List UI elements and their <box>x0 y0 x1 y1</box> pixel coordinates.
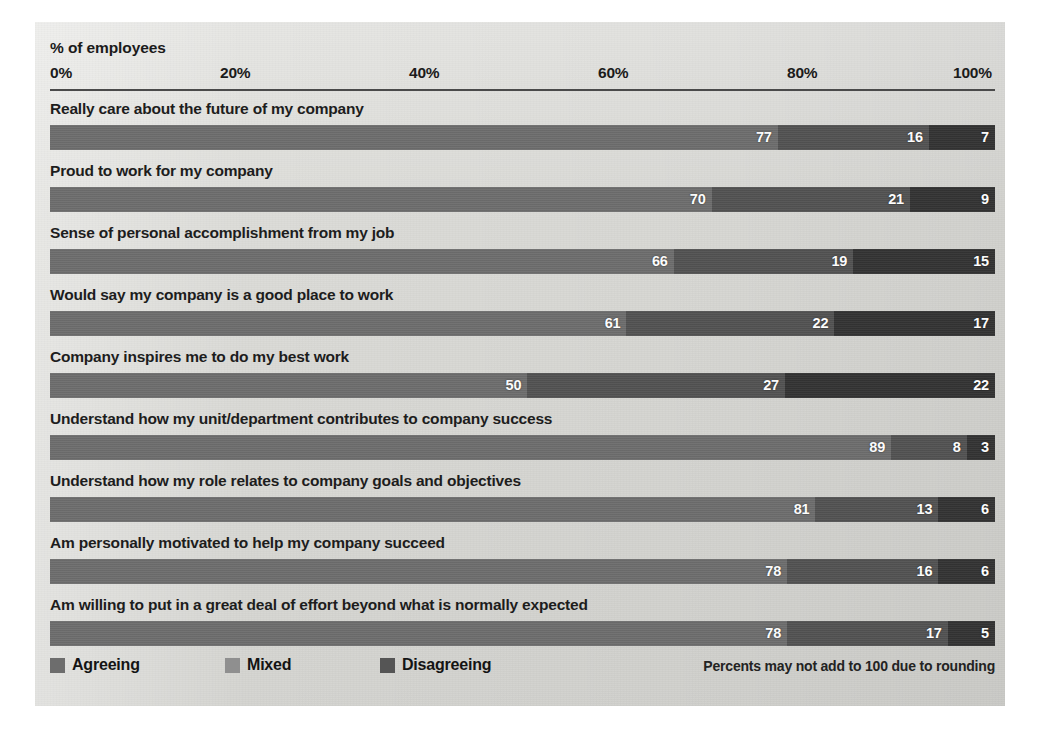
bar-segment-mixed: 16 <box>787 559 938 584</box>
bar-segment-value: 61 <box>605 316 627 331</box>
bar-segment-agreeing: 50 <box>50 373 527 398</box>
bar-segment-value: 15 <box>973 254 995 269</box>
bar-segment-agreeing: 89 <box>50 435 891 460</box>
legend-label: Disagreeing <box>402 656 491 674</box>
bar-segment-value: 7 <box>981 130 995 145</box>
x-axis-ticks: 0%20%40%60%80%100% <box>50 64 995 86</box>
bar-row: Would say my company is a good place to … <box>50 284 995 346</box>
x-tick-60: 60% <box>598 64 628 82</box>
bar-row-label: Am willing to put in a great deal of eff… <box>50 596 588 614</box>
bar-segment-mixed: 22 <box>626 311 834 336</box>
bar-segment-agreeing: 81 <box>50 497 815 522</box>
bar-segment-value: 9 <box>981 192 995 207</box>
bar-segment-disagreeing: 7 <box>929 125 995 150</box>
bar-segment-mixed: 27 <box>527 373 785 398</box>
bar-segment-value: 70 <box>690 192 712 207</box>
bar-segment-agreeing: 70 <box>50 187 712 212</box>
bar-segment-value: 8 <box>953 440 967 455</box>
stacked-bar: 661915 <box>50 249 995 274</box>
bar-row: Am personally motivated to help my compa… <box>50 532 995 594</box>
bar-row-label: Sense of personal accomplishment from my… <box>50 224 394 242</box>
stacked-bar: 502722 <box>50 373 995 398</box>
stacked-bar: 70219 <box>50 187 995 212</box>
x-tick-80: 80% <box>787 64 817 82</box>
stacked-bar: 77167 <box>50 125 995 150</box>
x-tick-40: 40% <box>409 64 439 82</box>
bar-row-label: Proud to work for my company <box>50 162 273 180</box>
legend-swatch-agreeing <box>50 658 65 673</box>
legend-swatch-mixed <box>225 658 240 673</box>
bar-segment-disagreeing: 5 <box>948 621 995 646</box>
bar-segment-disagreeing: 6 <box>938 559 995 584</box>
x-tick-0: 0% <box>50 64 72 82</box>
bar-segment-value: 78 <box>765 626 787 641</box>
bar-segment-mixed: 19 <box>674 249 854 274</box>
bar-segment-disagreeing: 15 <box>853 249 995 274</box>
bar-row-label: Company inspires me to do my best work <box>50 348 349 366</box>
bar-segment-value: 17 <box>926 626 948 641</box>
bar-segment-value: 17 <box>973 316 995 331</box>
stacked-bar: 78166 <box>50 559 995 584</box>
bar-row-label: Am personally motivated to help my compa… <box>50 534 445 552</box>
bar-segment-value: 21 <box>888 192 910 207</box>
stacked-bar: 8983 <box>50 435 995 460</box>
stacked-bar: 612217 <box>50 311 995 336</box>
axis-title: % of employees <box>50 39 166 57</box>
bar-segment-disagreeing: 9 <box>910 187 995 212</box>
x-tick-100: 100% <box>953 64 992 82</box>
bar-segment-value: 22 <box>973 378 995 393</box>
stacked-bar: 81136 <box>50 497 995 522</box>
bar-row-label: Understand how my unit/department contri… <box>50 410 552 428</box>
legend-item-agreeing[interactable]: Agreeing <box>50 656 140 674</box>
bar-row: Am willing to put in a great deal of eff… <box>50 594 995 656</box>
bar-row-label: Really care about the future of my compa… <box>50 100 364 118</box>
bar-rows: Really care about the future of my compa… <box>50 98 995 656</box>
bar-segment-disagreeing: 3 <box>967 435 995 460</box>
bar-segment-value: 3 <box>981 440 995 455</box>
bar-segment-value: 50 <box>506 378 528 393</box>
bar-segment-value: 16 <box>907 130 929 145</box>
bar-segment-agreeing: 66 <box>50 249 674 274</box>
legend-swatch-disagreeing <box>380 658 395 673</box>
bar-segment-value: 13 <box>917 502 939 517</box>
bar-segment-value: 66 <box>652 254 674 269</box>
bar-row: Really care about the future of my compa… <box>50 98 995 160</box>
bar-segment-value: 78 <box>765 564 787 579</box>
bar-segment-mixed: 8 <box>891 435 967 460</box>
bar-segment-value: 77 <box>756 130 778 145</box>
bar-row: Sense of personal accomplishment from my… <box>50 222 995 284</box>
bar-segment-value: 89 <box>869 440 891 455</box>
chart-inner: % of employees 0%20%40%60%80%100% Really… <box>50 22 1010 706</box>
bar-segment-value: 6 <box>981 564 995 579</box>
bar-segment-mixed: 13 <box>815 497 938 522</box>
legend-item-mixed[interactable]: Mixed <box>225 656 291 674</box>
x-tick-20: 20% <box>220 64 250 82</box>
bar-segment-agreeing: 61 <box>50 311 626 336</box>
bar-segment-value: 22 <box>813 316 835 331</box>
bar-row: Understand how my unit/department contri… <box>50 408 995 470</box>
stacked-bar: 78175 <box>50 621 995 646</box>
bar-row-label: Understand how my role relates to compan… <box>50 472 521 490</box>
bar-segment-agreeing: 78 <box>50 621 787 646</box>
legend-label: Agreeing <box>72 656 140 674</box>
bar-segment-value: 6 <box>981 502 995 517</box>
legend-label: Mixed <box>247 656 291 674</box>
legend-item-disagreeing[interactable]: Disagreeing <box>380 656 491 674</box>
bar-segment-value: 27 <box>763 378 785 393</box>
bar-segment-value: 16 <box>917 564 939 579</box>
bar-segment-disagreeing: 6 <box>938 497 995 522</box>
bar-row-label: Would say my company is a good place to … <box>50 286 393 304</box>
bar-row: Proud to work for my company70219 <box>50 160 995 222</box>
bar-segment-mixed: 21 <box>712 187 910 212</box>
bar-row: Understand how my role relates to compan… <box>50 470 995 532</box>
bar-segment-disagreeing: 22 <box>785 373 995 398</box>
bar-segment-value: 19 <box>832 254 854 269</box>
bar-segment-mixed: 16 <box>778 125 929 150</box>
bar-segment-mixed: 17 <box>787 621 948 646</box>
bar-segment-agreeing: 78 <box>50 559 787 584</box>
chart-legend: Percents may not add to 100 due to round… <box>50 656 995 682</box>
bar-segment-value: 81 <box>794 502 816 517</box>
chart-panel: % of employees 0%20%40%60%80%100% Really… <box>35 22 1005 706</box>
bar-segment-disagreeing: 17 <box>834 311 995 336</box>
rounding-footnote: Percents may not add to 100 due to round… <box>703 658 995 674</box>
